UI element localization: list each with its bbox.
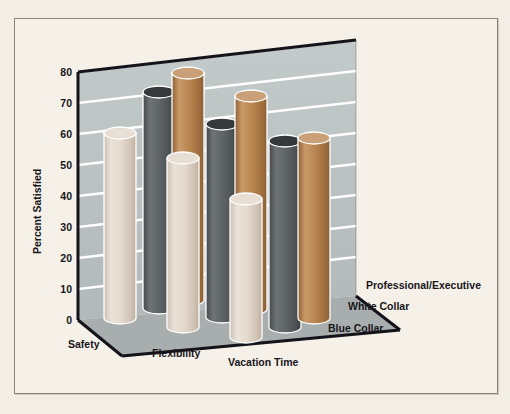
- y-tick-40: 40: [60, 190, 72, 202]
- legend-item-professional-executive[interactable]: Professional/Executive: [366, 279, 481, 291]
- bar-vacation-time-professional-executive[interactable]: [298, 132, 330, 324]
- legend-item-white-collar[interactable]: White Collar: [348, 300, 409, 312]
- bar-safety-blue-collar[interactable]: [104, 127, 136, 324]
- figure-frame: 80 70 60 50 40 30 20 10 0 Percent Satisf…: [0, 0, 510, 414]
- y-tick-50: 50: [60, 159, 72, 171]
- y-tick-0: 0: [66, 314, 72, 326]
- bar-flexibility-blue-collar[interactable]: [167, 152, 199, 333]
- y-tick-labels: 80 70 60 50 40 30 20 10 0: [60, 66, 72, 326]
- category-label-flexibility: Flexibility: [152, 347, 201, 359]
- y-tick-80: 80: [60, 66, 72, 78]
- y-tick-20: 20: [60, 252, 72, 264]
- y-tick-70: 70: [60, 97, 72, 109]
- category-label-safety: Safety: [68, 338, 100, 350]
- chart-canvas: 80 70 60 50 40 30 20 10 0 Percent Satisf…: [0, 0, 510, 414]
- legend-item-blue-collar[interactable]: Blue Collar: [328, 322, 383, 334]
- bar-vacation-time-white-collar[interactable]: [269, 135, 301, 333]
- y-axis-title: Percent Satisfied: [31, 169, 43, 254]
- bar-vacation-time-blue-collar[interactable]: [230, 193, 262, 343]
- category-label-vacation-time: Vacation Time: [228, 356, 299, 368]
- y-tick-10: 10: [60, 283, 72, 295]
- y-tick-30: 30: [60, 221, 72, 233]
- y-tick-60: 60: [60, 128, 72, 140]
